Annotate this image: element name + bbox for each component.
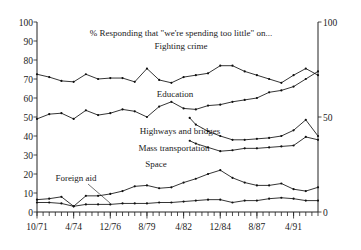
x-axis-ticks — [37, 212, 318, 219]
chart-title: % Responding that "we're spending too li… — [90, 28, 272, 38]
x-tick-label-7: 4/91 — [285, 222, 302, 232]
y-label-40: 40 — [24, 132, 34, 142]
y-axis-left-ticks — [34, 22, 38, 212]
y-label-10: 10 — [24, 189, 34, 199]
x-tick-label-4: 4/82 — [175, 222, 192, 232]
data-series-layer — [36, 65, 319, 208]
foreign-aid-leader-line — [88, 184, 110, 203]
y-label-100: 100 — [19, 18, 34, 28]
x-tick-label-2: 12/76 — [99, 222, 121, 232]
series-label-space: Space — [145, 159, 167, 169]
y-axis-left-labels: 100 90 80 70 60 50 40 30 20 10 0 — [19, 18, 34, 218]
y-label-20: 20 — [24, 170, 34, 180]
x-tick-label-1: 4/74 — [65, 222, 82, 232]
y-axis-right-ticks — [318, 22, 322, 212]
survey-line-chart: 100 90 80 70 60 50 40 30 20 10 0 100 50 … — [0, 0, 361, 250]
x-axis-labels: 10/714/7412/768/794/8212/848/874/91 — [26, 222, 302, 232]
series-fighting-crime — [36, 65, 319, 84]
y-label-60: 60 — [24, 94, 34, 104]
y-label-0: 0 — [28, 208, 33, 218]
y-label-30: 30 — [24, 151, 34, 161]
y-label-80: 80 — [24, 56, 34, 66]
y-label-90: 90 — [24, 37, 34, 47]
y-label-70: 70 — [24, 75, 34, 85]
x-tick-label-0: 10/71 — [26, 222, 48, 232]
y2-label-0: 0 — [323, 208, 328, 218]
y-label-50: 50 — [24, 113, 34, 123]
x-tick-label-5: 12/84 — [209, 222, 231, 232]
series-label-foreign-aid: Foreign aid — [55, 173, 97, 183]
x-tick-label-3: 8/79 — [139, 222, 156, 232]
y2-label-100: 100 — [323, 18, 338, 28]
chart-title-group: % Responding that "we're spending too li… — [90, 28, 272, 38]
series-label-fighting-crime: Fighting crime — [154, 41, 207, 51]
chart-container: 100 90 80 70 60 50 40 30 20 10 0 100 50 … — [0, 0, 361, 250]
y2-label-50: 50 — [323, 113, 333, 123]
x-tick-label-6: 8/87 — [248, 222, 265, 232]
y-axis-right-labels: 100 50 0 — [323, 18, 338, 218]
series-label-education: Education — [157, 89, 194, 99]
